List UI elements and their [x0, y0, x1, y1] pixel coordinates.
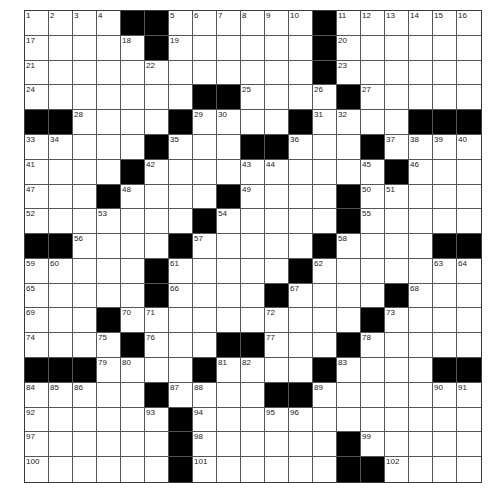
grid-cell[interactable]	[433, 284, 457, 309]
grid-cell[interactable]	[169, 160, 193, 185]
grid-cell[interactable]	[433, 209, 457, 234]
grid-cell[interactable]	[121, 209, 145, 234]
grid-cell[interactable]	[265, 185, 289, 210]
grid-cell[interactable]	[409, 185, 433, 210]
grid-cell[interactable]	[265, 432, 289, 457]
grid-cell[interactable]: 32	[337, 110, 361, 135]
grid-cell[interactable]	[241, 457, 265, 482]
grid-cell[interactable]	[289, 36, 313, 61]
grid-cell[interactable]	[169, 308, 193, 333]
grid-cell[interactable]	[169, 61, 193, 86]
grid-cell[interactable]: 2	[49, 11, 73, 36]
grid-cell[interactable]: 34	[49, 135, 73, 160]
grid-cell[interactable]: 73	[385, 308, 409, 333]
grid-cell[interactable]	[361, 36, 385, 61]
grid-cell[interactable]	[169, 209, 193, 234]
grid-cell[interactable]: 41	[25, 160, 49, 185]
grid-cell[interactable]	[97, 160, 121, 185]
grid-cell[interactable]: 101	[193, 457, 217, 482]
grid-cell[interactable]	[289, 160, 313, 185]
grid-cell[interactable]	[337, 160, 361, 185]
grid-cell[interactable]: 7	[217, 11, 241, 36]
grid-cell[interactable]: 99	[361, 432, 385, 457]
grid-cell[interactable]	[49, 408, 73, 433]
grid-cell[interactable]	[265, 36, 289, 61]
grid-cell[interactable]	[73, 185, 97, 210]
grid-cell[interactable]	[193, 61, 217, 86]
grid-cell[interactable]	[49, 85, 73, 110]
grid-cell[interactable]: 96	[289, 408, 313, 433]
grid-cell[interactable]	[121, 135, 145, 160]
grid-cell[interactable]	[289, 308, 313, 333]
grid-cell[interactable]	[217, 36, 241, 61]
grid-cell[interactable]	[265, 457, 289, 482]
grid-cell[interactable]	[145, 85, 169, 110]
grid-cell[interactable]: 11	[337, 11, 361, 36]
grid-cell[interactable]	[409, 432, 433, 457]
grid-cell[interactable]: 98	[193, 432, 217, 457]
grid-cell[interactable]	[385, 333, 409, 358]
grid-cell[interactable]	[97, 383, 121, 408]
grid-cell[interactable]	[457, 284, 481, 309]
grid-cell[interactable]: 79	[97, 358, 121, 383]
grid-cell[interactable]: 66	[169, 284, 193, 309]
grid-cell[interactable]	[97, 85, 121, 110]
grid-cell[interactable]	[73, 85, 97, 110]
grid-cell[interactable]	[289, 185, 313, 210]
grid-cell[interactable]	[361, 383, 385, 408]
grid-cell[interactable]	[193, 36, 217, 61]
grid-cell[interactable]	[121, 110, 145, 135]
grid-cell[interactable]	[217, 308, 241, 333]
grid-cell[interactable]	[457, 308, 481, 333]
grid-cell[interactable]	[73, 209, 97, 234]
grid-cell[interactable]	[193, 259, 217, 284]
grid-cell[interactable]	[73, 284, 97, 309]
grid-cell[interactable]	[409, 308, 433, 333]
grid-cell[interactable]: 85	[49, 383, 73, 408]
grid-cell[interactable]: 35	[169, 135, 193, 160]
grid-cell[interactable]: 51	[385, 185, 409, 210]
grid-cell[interactable]	[241, 259, 265, 284]
grid-cell[interactable]	[289, 85, 313, 110]
grid-cell[interactable]	[289, 333, 313, 358]
grid-cell[interactable]	[313, 284, 337, 309]
grid-cell[interactable]	[385, 408, 409, 433]
grid-cell[interactable]	[241, 383, 265, 408]
grid-cell[interactable]	[73, 333, 97, 358]
grid-cell[interactable]	[385, 383, 409, 408]
grid-cell[interactable]	[265, 85, 289, 110]
grid-cell[interactable]	[385, 358, 409, 383]
grid-cell[interactable]: 13	[385, 11, 409, 36]
grid-cell[interactable]	[241, 234, 265, 259]
grid-cell[interactable]	[217, 160, 241, 185]
grid-cell[interactable]	[409, 61, 433, 86]
grid-cell[interactable]: 50	[361, 185, 385, 210]
grid-cell[interactable]	[121, 234, 145, 259]
grid-cell[interactable]	[49, 284, 73, 309]
grid-cell[interactable]	[289, 432, 313, 457]
grid-cell[interactable]: 72	[265, 308, 289, 333]
grid-cell[interactable]	[121, 457, 145, 482]
grid-cell[interactable]	[265, 61, 289, 86]
grid-cell[interactable]: 91	[457, 383, 481, 408]
grid-cell[interactable]	[385, 209, 409, 234]
grid-cell[interactable]	[385, 234, 409, 259]
grid-cell[interactable]: 46	[409, 160, 433, 185]
grid-cell[interactable]: 74	[25, 333, 49, 358]
grid-cell[interactable]	[121, 85, 145, 110]
grid-cell[interactable]	[409, 457, 433, 482]
grid-cell[interactable]	[337, 308, 361, 333]
grid-cell[interactable]	[145, 209, 169, 234]
grid-cell[interactable]	[241, 432, 265, 457]
grid-cell[interactable]	[433, 85, 457, 110]
grid-cell[interactable]: 56	[73, 234, 97, 259]
grid-cell[interactable]	[313, 135, 337, 160]
grid-cell[interactable]	[97, 61, 121, 86]
grid-cell[interactable]	[121, 432, 145, 457]
grid-cell[interactable]	[241, 284, 265, 309]
grid-cell[interactable]: 52	[25, 209, 49, 234]
grid-cell[interactable]: 1	[25, 11, 49, 36]
grid-cell[interactable]: 93	[145, 408, 169, 433]
grid-cell[interactable]	[409, 209, 433, 234]
grid-cell[interactable]	[97, 36, 121, 61]
